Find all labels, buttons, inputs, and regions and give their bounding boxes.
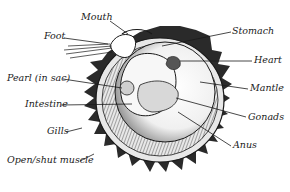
label-foot: Foot xyxy=(44,31,65,41)
label-open-shut-muscle: Open/shut muscle xyxy=(7,155,94,165)
label-mantle: Mantle xyxy=(250,83,284,93)
label-gills: Gills xyxy=(47,126,69,136)
pearl-sac xyxy=(120,81,134,95)
oyster-anatomy-diagram: Mouth Foot Stomach Heart Pearl (in sac) … xyxy=(0,0,290,192)
label-mouth: Mouth xyxy=(81,12,113,22)
heart-organ xyxy=(166,56,180,69)
label-anus: Anus xyxy=(233,140,257,150)
label-intestine: Intestine xyxy=(25,99,68,109)
label-gonads: Gonads xyxy=(248,112,284,122)
byssus-threads xyxy=(64,44,112,58)
label-stomach: Stomach xyxy=(232,26,274,36)
label-pearl: Pearl (in sac) xyxy=(7,73,70,83)
label-heart: Heart xyxy=(254,55,282,65)
